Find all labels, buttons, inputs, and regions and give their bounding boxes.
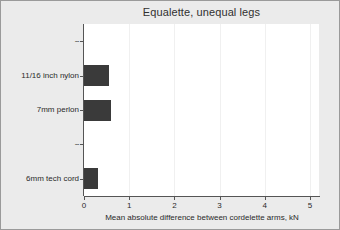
y-axis-tick [80, 179, 84, 180]
x-axis-tick [310, 196, 311, 200]
x-axis-tick-label: 4 [255, 201, 275, 211]
x-axis-tick-label: 3 [210, 201, 230, 211]
x-axis-line [84, 196, 320, 197]
x-axis-tick-label: 2 [164, 201, 184, 211]
gridline [174, 24, 175, 196]
y-axis-tick [80, 110, 84, 111]
x-axis-title: Mean absolute difference between cordele… [84, 213, 320, 223]
y-axis-tick-label: 7mm perlon [5, 105, 79, 115]
bar [84, 168, 98, 189]
x-axis-tick-label: 5 [300, 201, 320, 211]
x-axis-tick [174, 196, 175, 200]
x-axis-tick-label: 1 [119, 201, 139, 211]
x-axis-tick [265, 196, 266, 200]
bar [84, 65, 109, 86]
gridline [265, 24, 266, 196]
x-axis-tick [129, 196, 130, 200]
y-axis-tick [80, 41, 84, 42]
x-axis-tick [84, 196, 85, 200]
y-axis-tick-label: -- [5, 139, 79, 149]
y-axis-tick-label: -- [5, 36, 79, 46]
y-axis-tick-label: 6mm tech cord [5, 174, 79, 184]
gridline [310, 24, 311, 196]
chart-title: Equalette, unequal legs [84, 4, 319, 20]
gridline [129, 24, 130, 196]
x-axis-tick-label: 0 [74, 201, 94, 211]
y-axis-tick [80, 144, 84, 145]
plot-area [84, 24, 319, 196]
x-axis-tick [220, 196, 221, 200]
chart-screenshot: Equalette, unequal legs --11/16 inch nyl… [0, 0, 340, 230]
y-axis-tick [80, 76, 84, 77]
bar [84, 100, 111, 121]
y-axis-tick-label: 11/16 inch nylon [5, 71, 79, 81]
gridline [220, 24, 221, 196]
